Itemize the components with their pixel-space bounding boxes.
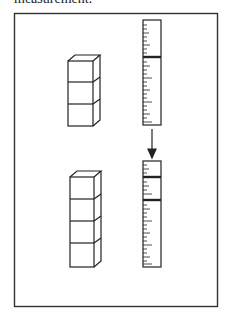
ruler-top: [143, 20, 161, 125]
cube-stack-3: [68, 55, 100, 126]
down-arrow-icon: [148, 129, 156, 158]
measurement-figure: [0, 0, 227, 320]
figure-frame: [15, 14, 218, 307]
cube-stack-4: [70, 171, 101, 267]
ruler-bottom: [143, 161, 161, 267]
